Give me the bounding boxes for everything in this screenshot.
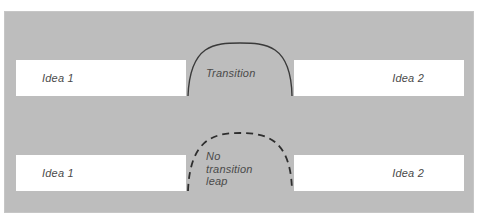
idea-box-bottom-left: Idea 1: [16, 155, 186, 191]
idea-box-label: Idea 2: [392, 167, 424, 179]
idea-box-label: Idea 1: [42, 72, 74, 84]
transition-arc-caption: Transition: [206, 67, 255, 80]
idea-box-top-right: Idea 2: [294, 60, 464, 96]
diagram-canvas: Idea 1 Idea 2 Idea 1 Idea 2 Transition N…: [0, 0, 491, 224]
idea-box-top-left: Idea 1: [16, 60, 186, 96]
idea-box-bottom-right: Idea 2: [294, 155, 464, 191]
no-transition-arc-caption: No transition leap: [206, 150, 253, 188]
idea-box-label: Idea 1: [42, 167, 74, 179]
idea-box-label: Idea 2: [392, 72, 424, 84]
